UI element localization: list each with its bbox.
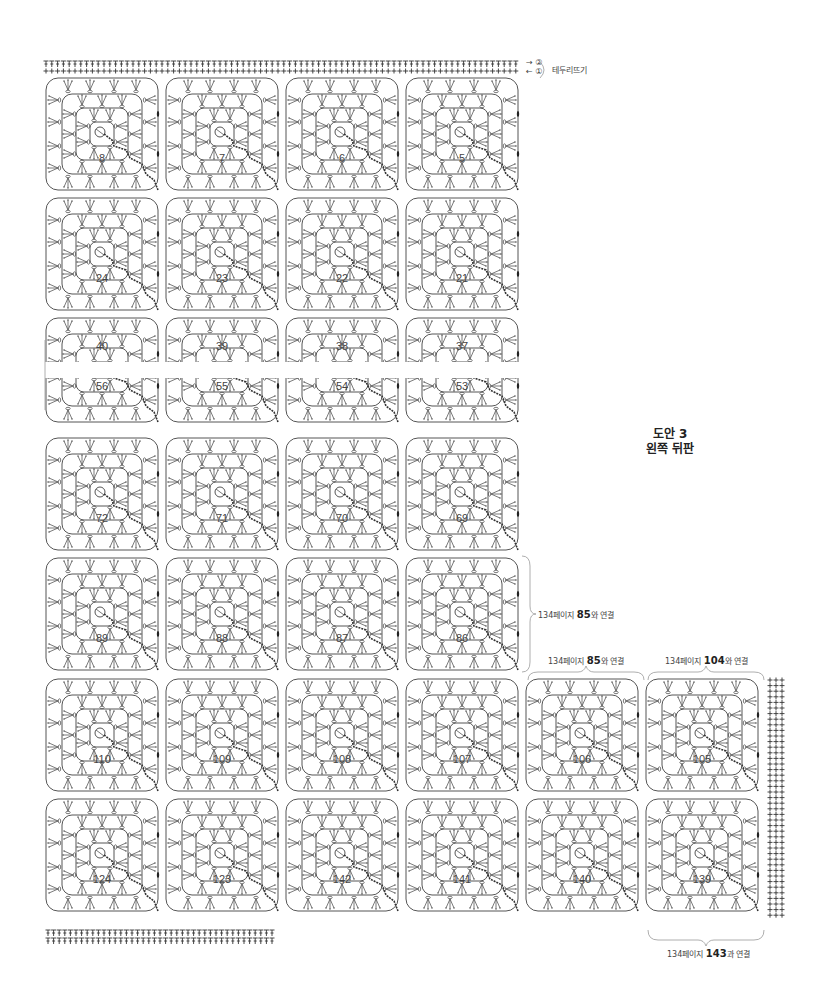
motif-number: 6 <box>339 152 345 164</box>
motif-square: 40 <box>46 318 159 430</box>
connection-label-col5: 134페이지 85와 연결 <box>548 655 624 666</box>
motif-number: 139 <box>693 873 711 885</box>
motif-square: 5 <box>406 78 519 190</box>
motif-square: 8 <box>46 78 159 190</box>
motif-number: 106 <box>573 753 591 765</box>
motif-square: 37 <box>406 318 519 430</box>
row2-marker-glyph: ② <box>535 58 542 67</box>
conn-prefix: 134페이지 <box>665 657 704 666</box>
motif-square: 89 <box>46 558 159 670</box>
motif-number: 107 <box>453 753 471 765</box>
edging-label: 테두리뜨기 <box>552 64 587 75</box>
motif-number: 141 <box>453 873 471 885</box>
motif-number: 105 <box>693 753 711 765</box>
motif-number: 24 <box>96 272 108 284</box>
motif-square: 108 <box>286 679 399 791</box>
motif-square: 23 <box>166 198 279 310</box>
motif-square: 38 <box>286 318 399 430</box>
motif-square: 109 <box>166 679 279 791</box>
motif-number: 37 <box>456 340 468 352</box>
pattern-title: 도안 3 왼쪽 뒤판 <box>620 427 720 457</box>
motif-number: 7 <box>219 152 225 164</box>
motif-square: 7 <box>166 78 279 190</box>
motif-square: 87 <box>286 558 399 670</box>
edging-markers: → ② ← ① <box>526 58 542 76</box>
motif-square: 71 <box>166 438 279 550</box>
motif-square: 53 <box>406 310 519 422</box>
motif-number: 39 <box>216 340 228 352</box>
motif-number: 23 <box>216 272 228 284</box>
connection-label-bottom-col6: 134페이지 143과 연결 <box>667 948 750 959</box>
motif-number: 71 <box>216 512 228 524</box>
conn-page-ref: 104 <box>704 655 725 666</box>
motif-number: 108 <box>333 753 351 765</box>
motif-square: 54 <box>286 310 399 422</box>
crochet-chart: 8765242322214039383756555453727170698988… <box>0 0 819 1003</box>
motif-number: 5 <box>459 152 465 164</box>
motif-square: 110 <box>46 679 159 791</box>
motif-square: 142 <box>286 799 399 911</box>
motif-square: 55 <box>166 310 279 422</box>
motif-number: 38 <box>336 340 348 352</box>
motif-number: 72 <box>96 512 108 524</box>
motif-square: 140 <box>526 799 639 911</box>
row1-marker: ← <box>526 67 535 76</box>
motif-number: 8 <box>99 152 105 164</box>
conn-page-ref: 143 <box>706 948 727 959</box>
motif-number: 87 <box>336 632 348 644</box>
motif-square: 6 <box>286 78 399 190</box>
connection-brackets <box>45 62 764 946</box>
motif-number: 21 <box>456 272 468 284</box>
conn-suffix: 과 연결 <box>727 950 751 959</box>
motif-number: 53 <box>456 380 468 392</box>
motif-number: 69 <box>456 512 468 524</box>
connection-label-col6: 134페이지 104와 연결 <box>665 655 748 666</box>
motif-number: 40 <box>96 340 108 352</box>
motif-square: 56 <box>46 310 159 422</box>
motif-square: 39 <box>166 318 279 430</box>
motif-number: 124 <box>93 873 111 885</box>
motif-square: 72 <box>46 438 159 550</box>
conn-suffix: 와 연결 <box>601 657 625 666</box>
motif-number: 22 <box>336 272 348 284</box>
conn-page-ref: 85 <box>587 655 601 666</box>
motif-square: 107 <box>406 679 519 791</box>
motif-square: 21 <box>406 198 519 310</box>
motif-number: 88 <box>216 632 228 644</box>
motif-number: 86 <box>456 632 468 644</box>
motif-square: 69 <box>406 438 519 550</box>
motif-square: 105 <box>646 679 759 791</box>
motif-grid: 8765242322214039383756555453727170698988… <box>46 78 759 911</box>
conn-prefix: 134페이지 <box>538 611 577 620</box>
motif-square: 106 <box>526 679 639 791</box>
motif-number: 123 <box>213 873 231 885</box>
motif-number: 89 <box>96 632 108 644</box>
motif-number: 109 <box>213 753 231 765</box>
conn-suffix: 와 연결 <box>725 657 749 666</box>
motif-number: 56 <box>96 380 108 392</box>
pattern-title-line2: 왼쪽 뒤판 <box>620 442 720 457</box>
row1-marker-glyph: ① <box>535 67 542 76</box>
motif-number: 54 <box>336 380 348 392</box>
motif-square: 124 <box>46 799 159 911</box>
motif-number: 142 <box>333 873 351 885</box>
motif-square: 86 <box>406 558 519 670</box>
motif-square: 24 <box>46 198 159 310</box>
motif-square: 141 <box>406 799 519 911</box>
row2-marker: → <box>526 58 535 67</box>
motif-number: 55 <box>216 380 228 392</box>
conn-prefix: 134페이지 <box>667 950 706 959</box>
pattern-title-line1: 도안 3 <box>620 427 720 442</box>
conn-suffix: 와 연결 <box>591 611 615 620</box>
motif-square: 139 <box>646 799 759 911</box>
connection-label-right-row5: 134페이지 85와 연결 <box>538 609 614 620</box>
motif-square: 22 <box>286 198 399 310</box>
conn-page-ref: 85 <box>577 609 591 620</box>
motif-square: 88 <box>166 558 279 670</box>
motif-number: 70 <box>336 512 348 524</box>
motif-square: 123 <box>166 799 279 911</box>
motif-square: 70 <box>286 438 399 550</box>
conn-prefix: 134페이지 <box>548 657 587 666</box>
motif-number: 110 <box>93 753 111 765</box>
motif-number: 140 <box>573 873 591 885</box>
